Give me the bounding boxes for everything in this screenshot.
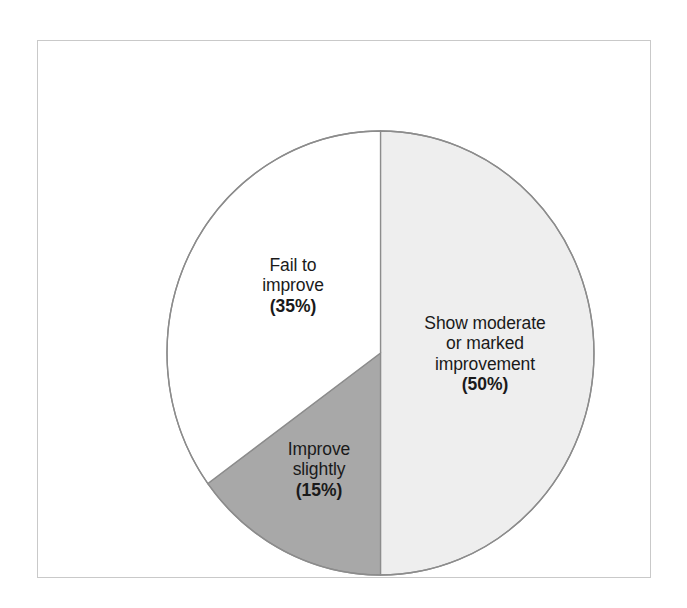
pie-label-fail-line2: improve — [262, 275, 324, 295]
pie-label-show-line3: improvement — [424, 354, 545, 374]
pie-label-fail-percent: (35%) — [262, 296, 324, 316]
pie-label-fail-to-improve: Fail to improve (35%) — [262, 255, 324, 316]
pie-label-show-line2: or marked — [424, 333, 545, 353]
pie-label-fail-line1: Fail to — [262, 255, 324, 275]
chart-frame: Fail to improve (35%) Show moderate or m… — [37, 40, 651, 578]
pie-label-improve-percent: (15%) — [288, 480, 351, 500]
pie-label-show-line1: Show moderate — [424, 313, 545, 333]
pie-label-improve-line2: slightly — [288, 459, 351, 479]
figure-container: Fail to improve (35%) Show moderate or m… — [0, 0, 687, 608]
pie-label-show-percent: (50%) — [424, 374, 545, 394]
pie-label-show-moderate: Show moderate or marked improvement (50%… — [424, 313, 545, 395]
pie-label-improve-slightly: Improve slightly (15%) — [288, 439, 351, 500]
pie-label-improve-line1: Improve — [288, 439, 351, 459]
